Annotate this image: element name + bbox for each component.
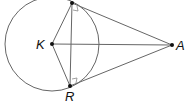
segment-ka: [52, 44, 172, 45]
geometry-diagram: K R A: [0, 0, 186, 103]
right-angle-mark-top: [73, 6, 78, 11]
label-a: A: [175, 38, 185, 53]
point-top: [70, 1, 74, 5]
radius-top: [52, 3, 72, 44]
point-a: [170, 43, 174, 47]
tangent-segment-top: [72, 3, 172, 45]
right-angle-mark-r: [72, 78, 77, 83]
point-k: [50, 42, 54, 46]
radius-kr: [52, 44, 70, 86]
label-r: R: [65, 89, 74, 103]
point-r: [68, 84, 72, 88]
label-k: K: [36, 37, 46, 52]
tangent-segment-ra: [70, 45, 172, 86]
